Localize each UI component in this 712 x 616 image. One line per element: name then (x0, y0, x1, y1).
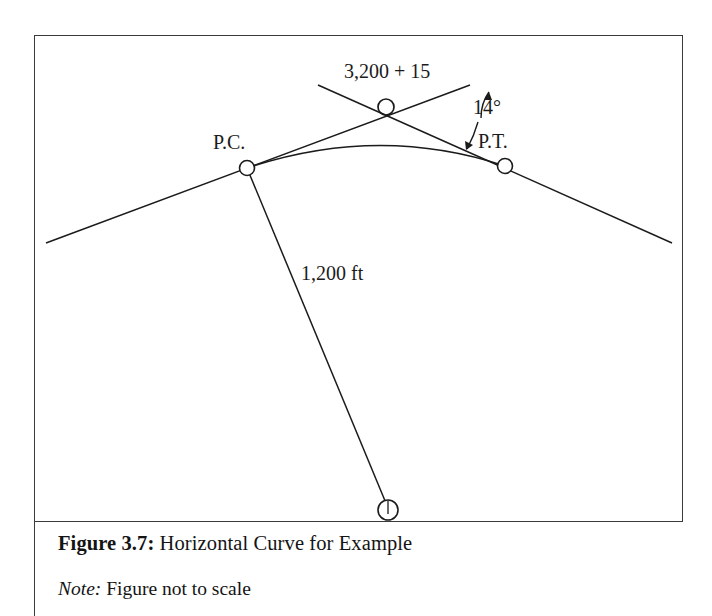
pi-marker-icon (378, 99, 394, 115)
horizontal-curve-diagram (0, 0, 712, 616)
figure-caption: Figure 3.7: Horizontal Curve for Example (58, 532, 412, 555)
radius-label: 1,200 ft (301, 262, 363, 285)
figure-caption-text: Horizontal Curve for Example (160, 532, 413, 554)
figure-note: Note: Figure not to scale (58, 578, 251, 600)
pc-label: P.C. (213, 131, 245, 154)
pi-station-label: 3,200 + 15 (344, 60, 430, 83)
deflection-angle-label: 14° (473, 96, 501, 119)
note-label: Note: (58, 578, 101, 599)
figure-number: Figure 3.7: (58, 532, 154, 554)
angle-leader-lower-arrowhead (465, 141, 473, 150)
pc-marker-icon (240, 161, 255, 176)
radius-line (247, 168, 388, 508)
pt-label: P.T. (478, 130, 508, 153)
figure-page: 3,200 + 15 14° P.C. P.T. 1,200 ft Figure… (0, 0, 712, 616)
note-text: Figure not to scale (106, 578, 251, 599)
pt-marker-icon (498, 159, 513, 174)
